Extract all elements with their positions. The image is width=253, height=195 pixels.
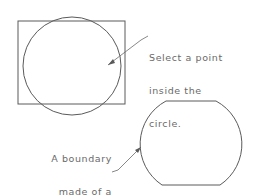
- circle: [23, 17, 121, 115]
- annotation-line: made of a: [20, 186, 112, 195]
- annotation-line: inside the: [149, 85, 223, 96]
- leader-tail-top: [141, 36, 148, 40]
- annotation-select-point: Select a point inside the circle.: [149, 30, 223, 140]
- arrowhead-top-icon: [108, 59, 115, 65]
- annotation-boundary-created: A boundary made of a polyline is created…: [20, 131, 112, 195]
- annotation-line: circle.: [149, 118, 223, 129]
- annotation-line: A boundary: [20, 153, 112, 164]
- leader-tail-bottom: [112, 170, 118, 172]
- annotation-line: Select a point: [149, 52, 223, 63]
